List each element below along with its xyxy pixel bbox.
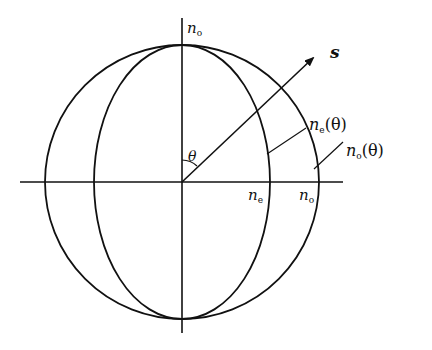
ne-theta-label: ne(θ) xyxy=(309,115,347,135)
wave-vector-arrow xyxy=(182,58,313,182)
theta-label: θ xyxy=(188,148,197,164)
no-theta-leader xyxy=(314,142,343,169)
ne-axis-label: ne xyxy=(248,186,263,205)
wave-vector-label: s xyxy=(329,42,340,62)
no-theta-label: no(θ) xyxy=(346,141,384,161)
axis-top-no-label: no xyxy=(187,19,202,38)
index-surface-diagram: no s θ ne(θ) no(θ) ne no xyxy=(0,0,432,350)
no-axis-label: no xyxy=(299,186,314,205)
ne-theta-leader xyxy=(267,128,306,154)
